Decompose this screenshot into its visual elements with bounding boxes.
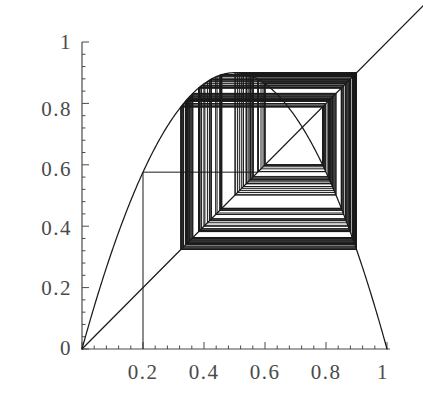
x-tick-label-0-6: 0.6 [235,362,295,383]
y-tick-label-0-4: 0.4 [20,218,72,239]
x-tick-label-1: 1 [363,362,403,383]
x-tick-label-0-4: 0.4 [174,362,234,383]
x-tick-label-0-2: 0.2 [113,362,173,383]
x-tick-label-0-8: 0.8 [296,362,356,383]
y-axis-ticks [82,42,89,349]
curve-layer [82,5,423,349]
cobweb-plot-figure: 0 0.2 0.4 0.6 0.8 1 0.2 0.4 0.6 0.8 1 [0,0,423,404]
y-tick-label-0-6: 0.6 [20,159,72,180]
y-tick-label-0-2: 0.2 [20,278,72,299]
y-tick-label-1: 1 [38,32,72,53]
y-tick-label-0: 0 [38,338,72,359]
x-axis-ticks [82,342,387,349]
y-tick-label-0-8: 0.8 [20,99,72,120]
